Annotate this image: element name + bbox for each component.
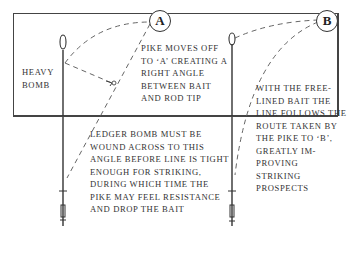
- marker-b: B: [316, 10, 338, 32]
- caption-ledger-bomb: LEDGER BOMB MUST BE WOUND ACROSS TO THIS…: [90, 128, 229, 216]
- caption-free-lined: WITH THE FREE- LINED BAIT THE LINE FOLLO…: [256, 82, 347, 195]
- caption-pike-moves: PIKE MOVES OFF TO ‘A’ CREATING A RIGHT A…: [141, 42, 228, 105]
- heavy-bomb-label: HEAVY BOMB: [22, 66, 54, 91]
- marker-a: A: [149, 10, 171, 32]
